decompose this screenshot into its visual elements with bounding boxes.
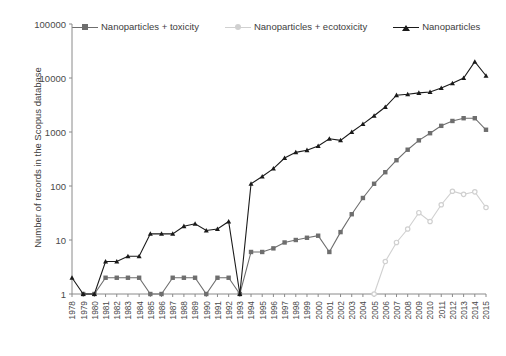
x-tick-label: 1988 [179,301,189,320]
x-tick-label: 1983 [123,301,133,320]
data-point-marker [383,259,387,263]
data-point-marker [249,250,253,254]
data-point-marker [215,276,219,280]
data-point-marker [439,203,443,207]
x-tick-label: 2012 [448,301,458,320]
x-axis: 1978197919801981198219831984198519861987… [67,294,491,319]
data-point-marker [428,219,432,223]
x-tick-label: 2014 [470,301,480,320]
x-tick-label: 2006 [381,301,391,320]
x-tick-label: 2005 [370,301,380,320]
plot-area: 110100100010000100000 197819791980198119… [0,0,506,356]
y-tick-label: 10000 [40,73,66,84]
series-nanoparticles-toxicity [81,116,488,296]
data-point-marker [394,158,398,162]
series-line [72,62,486,294]
y-tick-label: 1 [61,289,66,300]
data-point-marker [405,148,409,152]
x-tick-label: 2004 [358,301,368,320]
x-tick-label: 2002 [336,301,346,320]
data-series-group [70,59,489,296]
data-point-marker [70,275,75,280]
x-tick-label: 1980 [90,301,100,320]
data-point-marker [338,230,342,234]
x-tick-label: 2015 [481,301,491,320]
data-point-marker [461,116,465,120]
x-tick-label: 2013 [459,301,469,320]
data-point-marker [327,250,331,254]
data-point-marker [159,292,163,296]
y-tick-label: 100000 [34,19,66,30]
data-point-marker [226,219,231,224]
x-tick-label: 1997 [280,301,290,320]
data-point-marker [472,59,477,64]
series-nanoparticles-ecotoxicity [372,189,488,296]
x-tick-label: 1989 [190,301,200,320]
series-line [374,191,486,294]
x-tick-label: 1984 [135,301,145,320]
data-point-marker [484,128,488,132]
chart-container: Nanoparticles + toxicity Nanoparticles +… [0,0,506,356]
data-point-marker [282,240,286,244]
y-tick-label: 100 [50,181,66,192]
x-tick-label: 1999 [302,301,312,320]
data-point-marker [484,205,488,209]
data-point-marker [417,211,421,215]
data-point-marker [260,250,264,254]
data-point-marker [450,189,454,193]
data-point-marker [271,246,275,250]
data-point-marker [305,236,309,240]
data-point-marker [473,190,477,194]
y-tick-label: 1000 [45,127,66,138]
x-tick-label: 2009 [414,301,424,320]
x-tick-label: 1994 [246,301,256,320]
data-point-marker [260,174,265,179]
data-point-marker [171,276,175,280]
data-point-marker [428,131,432,135]
x-tick-label: 1998 [291,301,301,320]
x-tick-label: 2003 [347,301,357,320]
data-point-marker [349,129,354,134]
x-tick-label: 1993 [235,301,245,320]
data-point-marker [372,182,376,186]
x-tick-label: 1987 [168,301,178,320]
x-tick-label: 2008 [403,301,413,320]
x-tick-label: 1981 [101,301,111,320]
data-point-marker [417,138,421,142]
data-point-marker [115,276,119,280]
data-point-marker [450,119,454,123]
data-point-marker [394,240,398,244]
x-tick-label: 1979 [79,301,89,320]
series-nanoparticles [70,59,489,296]
x-tick-label: 1991 [213,301,223,320]
data-point-marker [148,292,152,296]
x-tick-label: 1978 [67,301,77,320]
x-tick-label: 1986 [157,301,167,320]
x-tick-label: 2011 [437,301,447,319]
x-tick-label: 1982 [112,301,122,320]
x-tick-label: 2000 [314,301,324,320]
data-point-marker [294,238,298,242]
series-line [83,118,486,294]
data-point-marker [361,196,365,200]
x-tick-label: 1985 [146,301,156,320]
data-point-marker [405,227,409,231]
data-point-marker [126,276,130,280]
data-point-marker [204,292,208,296]
data-point-marker [473,116,477,120]
data-point-marker [372,292,376,296]
data-point-marker [350,212,354,216]
x-tick-label: 1996 [269,301,279,320]
data-point-marker [137,276,141,280]
data-point-marker [316,143,321,148]
y-axis: 110100100010000100000 [34,19,72,300]
data-point-marker [193,276,197,280]
x-tick-label: 1990 [202,301,212,320]
y-tick-label: 10 [55,235,66,246]
x-tick-label: 2010 [425,301,435,320]
data-point-marker [383,170,387,174]
data-point-marker [103,276,107,280]
data-point-marker [316,234,320,238]
data-point-marker [249,181,254,186]
data-point-marker [182,276,186,280]
